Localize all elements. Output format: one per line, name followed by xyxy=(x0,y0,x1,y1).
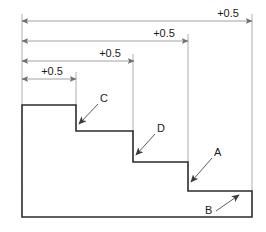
callout-label-b: B xyxy=(205,204,212,216)
leader-line-b xyxy=(216,195,239,211)
profile-path xyxy=(22,105,252,217)
callout-label-d: D xyxy=(157,122,165,134)
dimension-label-3: +0.5 xyxy=(99,47,121,59)
dimension-label-2: +0.5 xyxy=(153,27,175,39)
dimension-label-4: +0.5 xyxy=(41,65,63,77)
dimension-label-1: +0.5 xyxy=(217,7,239,19)
callout-label-a: A xyxy=(214,146,222,158)
callout-labels-group: C D A B xyxy=(100,92,222,216)
leader-line-c xyxy=(79,104,98,124)
step-profile-outline xyxy=(22,105,252,217)
extension-lines-group xyxy=(22,14,252,191)
staircase-drawing-canvas: +0.5 +0.5 +0.5 +0.5 C D A B xyxy=(0,0,266,232)
leader-line-d xyxy=(136,134,155,155)
leader-line-a xyxy=(191,158,212,182)
callout-label-c: C xyxy=(100,92,108,104)
step-profile-diagram: +0.5 +0.5 +0.5 +0.5 C D A B xyxy=(0,0,266,232)
dimension-labels-group: +0.5 +0.5 +0.5 +0.5 xyxy=(41,7,239,77)
